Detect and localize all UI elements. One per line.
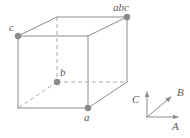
axis-label-b: B <box>177 87 184 98</box>
vertex-dot-b <box>54 79 60 85</box>
vertex-label-a: a <box>84 112 90 123</box>
vertex-dot-abc <box>124 14 130 20</box>
hidden-edge-connect-bottom-left <box>18 82 57 108</box>
cube-hidden-edges <box>18 17 127 108</box>
vertex-dot-c <box>15 33 21 39</box>
vertex-dots <box>15 14 130 111</box>
cube-visible-edges <box>18 17 127 108</box>
axis-triad <box>147 92 178 117</box>
vertex-label-b: b <box>60 67 66 78</box>
edge-connect-bottom-right <box>88 82 127 108</box>
edge-connect-top-left <box>18 17 57 36</box>
vertex-label-c: c <box>9 22 14 33</box>
edge-connect-top-right <box>88 17 127 36</box>
axis-label-a: A <box>172 121 179 132</box>
axis-label-c: C <box>132 94 139 105</box>
cube-symmetry-figure: c abc b a A B C <box>0 0 190 138</box>
vertex-label-abc: abc <box>113 2 129 13</box>
cube-drawing <box>0 0 190 138</box>
axis-arrow-b <box>147 97 171 117</box>
